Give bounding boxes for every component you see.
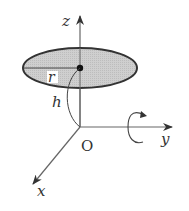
origin-label: O bbox=[81, 137, 93, 155]
coordinate-diagram: z y x O r h bbox=[0, 0, 189, 211]
height-label: h bbox=[52, 93, 62, 111]
y-axis-label: y bbox=[160, 130, 170, 148]
x-axis bbox=[33, 127, 80, 184]
rotation-arrowhead-icon bbox=[140, 111, 147, 118]
z-axis-label: z bbox=[61, 12, 70, 30]
x-axis-label: x bbox=[37, 182, 46, 200]
